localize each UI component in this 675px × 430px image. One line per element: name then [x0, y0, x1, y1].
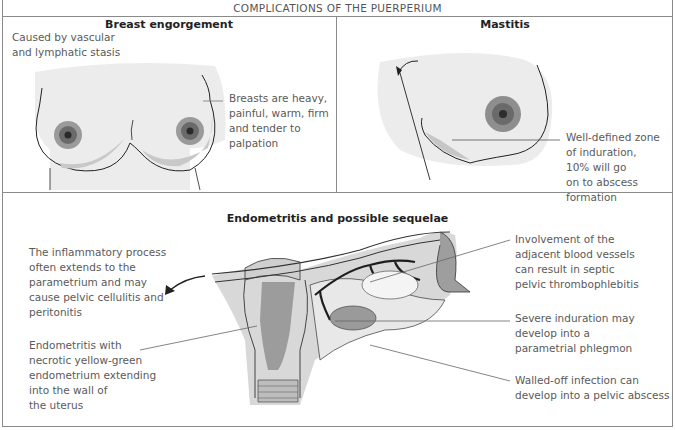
label-line: painful, warm, firm [229, 106, 329, 121]
label-line: The inflammatory process [29, 245, 166, 260]
label-line: Well-defined zone [566, 130, 660, 145]
label-line: of induration, [566, 145, 660, 160]
label-line: Caused by vascular [12, 30, 120, 45]
vessels-label: Involvement of the adjacent blood vessel… [515, 232, 639, 292]
label-line: the uterus [29, 398, 156, 413]
endometritis-leader-line [140, 326, 257, 350]
label-line: often extends to the [29, 260, 166, 275]
arrow-head-icon [165, 285, 175, 295]
label-line: Involvement of the [515, 232, 639, 247]
label-line: Walled-off infection can [515, 373, 669, 388]
mastitis-title: Mastitis [337, 18, 673, 31]
abscess-label: Walled-off infection can develop into a … [515, 373, 669, 403]
label-line: into the wall of [29, 383, 156, 398]
label-line: parametrial phlegmon [515, 341, 635, 356]
extension-arrow [170, 276, 205, 290]
uterus-illustration [140, 232, 510, 405]
label-line: 10% will go [566, 160, 660, 175]
engorgement-illustration [35, 63, 226, 190]
label-line: peritonitis [29, 305, 166, 320]
label-line: Endometritis with [29, 338, 156, 353]
label-line: cause pelvic cellulitis and [29, 290, 166, 305]
mastitis-finding-label: Well-defined zone of induration, 10% wil… [566, 130, 660, 205]
endometritis-label: Endometritis with necrotic yellow-green … [29, 338, 156, 413]
label-line: can result in septic [515, 262, 639, 277]
label-line: palpation [229, 136, 329, 151]
induration-label: Severe induration may develop into a par… [515, 311, 635, 356]
label-line: and tender to [229, 121, 329, 136]
engorgement-finding-label: Breasts are heavy, painful, warm, firm a… [229, 91, 329, 151]
label-line: endometrium extending [29, 368, 156, 383]
mastitis-illustration [378, 53, 561, 180]
engorgement-cause-label: Caused by vascular and lymphatic stasis [12, 30, 120, 60]
label-line: necrotic yellow-green [29, 353, 156, 368]
label-line: parametrium and may [29, 275, 166, 290]
label-line: on to abscess [566, 175, 660, 190]
label-line: Severe induration may [515, 311, 635, 326]
abscess-leader-line [370, 345, 510, 381]
extension-label: The inflammatory process often extends t… [29, 245, 166, 320]
endometritis-title: Endometritis and possible sequelae [2, 212, 673, 225]
label-line: and lymphatic stasis [12, 45, 120, 60]
label-line: develop into a [515, 326, 635, 341]
label-line: formation [566, 190, 660, 205]
label-line: Breasts are heavy, [229, 91, 329, 106]
label-line: pelvic thrombophlebitis [515, 277, 639, 292]
label-line: develop into a pelvic abscess [515, 388, 669, 403]
label-line: adjacent blood vessels [515, 247, 639, 262]
